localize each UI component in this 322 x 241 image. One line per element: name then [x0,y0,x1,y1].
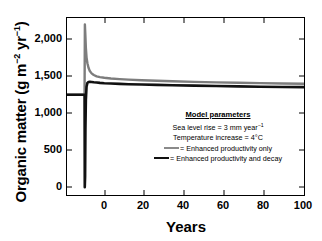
y-tick-label: 1,000 [28,106,62,118]
y-axis-tick-labels: 2,000 1,500 1,000 500 0 [26,0,62,241]
legend-entry-productivity-only-label: = Enhanced productivity only [180,144,272,153]
x-axis-title: Years [66,218,306,235]
y-tick-label: 0 [28,180,62,192]
plot-area [66,17,305,196]
legend-title: Model parameters [138,110,298,121]
x-tick-label: 100 [283,199,322,211]
figure-canvas: Organic matter (g m−2 yr−1) 2,000 1,500 … [0,0,322,241]
x-tick-label: 40 [163,199,203,211]
x-tick-label: 0 [84,199,124,211]
legend-param-sea-level: Sea level rise = 3 mm year−1 [138,122,298,134]
legend-swatch-black-icon [154,157,169,159]
axis-ticks-inner [67,18,304,195]
series-plot [67,18,304,195]
legend-param-sea-level-sup: −1 [258,122,264,128]
legend-entry-productivity-only: = Enhanced productivity only [138,144,298,154]
y-axis-title-sup2: −1 [12,26,22,36]
legend-box: Model parameters Sea level rise = 3 mm y… [138,110,298,164]
x-tick-label: 80 [243,199,283,211]
legend-param-sea-level-text: Sea level rise = 3 mm year [172,123,257,132]
legend-param-temperature-text: Temperature increase = 4°C [173,133,263,142]
legend-param-temperature: Temperature increase = 4°C [138,133,298,143]
legend-entry-productivity-and-decay-label: = Enhanced productivity and decay [170,154,282,163]
y-tick-label: 500 [28,143,62,155]
x-tick-label: 60 [203,199,243,211]
x-tick-label: 20 [123,199,163,211]
y-tick-label: 1,500 [28,69,62,81]
legend-entry-productivity-and-decay: = Enhanced productivity and decay [138,154,298,164]
y-tick-label: 2,000 [28,32,62,44]
y-axis-title-sup1: −2 [12,54,22,64]
legend-swatch-gray-icon [164,147,179,149]
